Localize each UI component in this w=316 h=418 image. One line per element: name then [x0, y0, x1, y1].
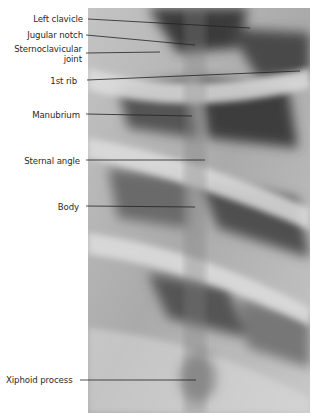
- label-sternoclavicular-line2: joint: [14, 54, 82, 64]
- label-body: Body: [58, 202, 79, 212]
- leader-jugular-notch: [86, 35, 195, 45]
- leader-sternoclavicular-joint: [86, 52, 160, 53]
- label-sternoclavicular-line1: Sternoclavicular: [14, 44, 82, 54]
- label-manubrium: Manubrium: [32, 110, 80, 120]
- label-jugular-notch: Jugular notch: [27, 30, 83, 40]
- leader-first-rib: [87, 71, 300, 80]
- leader-left-clavicle: [88, 19, 250, 28]
- leader-manubrium: [86, 114, 192, 116]
- label-sternal-angle: Sternal angle: [24, 156, 80, 166]
- label-xiphoid-process: Xiphoid process: [6, 375, 73, 385]
- leader-body: [86, 206, 195, 207]
- label-left-clavicle: Left clavicle: [33, 14, 83, 24]
- label-sternoclavicular-joint: Sternoclavicular joint: [14, 44, 82, 64]
- label-first-rib: 1st rib: [50, 76, 77, 86]
